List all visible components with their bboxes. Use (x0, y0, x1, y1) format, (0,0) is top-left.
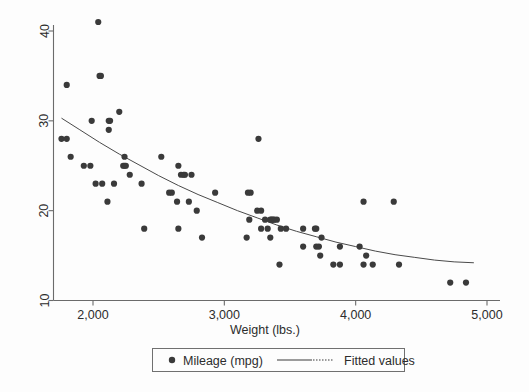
scatter-point (127, 172, 133, 178)
scatter-point (363, 252, 369, 258)
chart-page: 10203040 2,0003,0004,0005,000 Weight (lb… (0, 0, 529, 392)
scatter-point (283, 226, 289, 232)
scatter-point (317, 252, 323, 258)
scatter-point (330, 261, 336, 267)
y-tick-label: 20 (38, 204, 52, 218)
y-tick-label: 30 (38, 114, 52, 128)
scatter-point (64, 82, 70, 88)
scatter-point (357, 244, 363, 250)
scatter-point (99, 181, 105, 187)
scatter-point (106, 127, 112, 133)
scatter-point (276, 261, 282, 267)
scatter-point (300, 244, 306, 250)
scatter-point (265, 226, 271, 232)
scatter-point (360, 199, 366, 205)
scatter-point (274, 217, 280, 223)
scatter-point (123, 163, 129, 169)
scatter-point (186, 199, 192, 205)
scatter-point (64, 136, 70, 142)
scatter-point (370, 261, 376, 267)
scatter-point (258, 226, 264, 232)
scatter-point (447, 279, 453, 285)
scatter-point (141, 226, 147, 232)
legend-item-label-mileage: Mileage (mpg) (183, 354, 263, 368)
scatter-point (169, 190, 175, 196)
scatter-point (267, 235, 273, 241)
scatter-point (248, 190, 254, 196)
scatter-point (337, 244, 343, 250)
scatter-point (175, 226, 181, 232)
legend-circle-marker-icon (169, 357, 175, 363)
scatter-point (93, 181, 99, 187)
scatter-point (81, 163, 87, 169)
y-tick-label: 10 (38, 294, 52, 308)
scatter-point (391, 199, 397, 205)
x-tick-label: 3,000 (209, 308, 240, 322)
scatter-point (300, 226, 306, 232)
scatter-point (107, 118, 113, 124)
scatter-point (174, 199, 180, 205)
scatter-point (121, 154, 127, 160)
scatter-point (104, 199, 110, 205)
scatter-point (95, 19, 101, 25)
scatter-point (212, 190, 218, 196)
scatter-point (188, 172, 194, 178)
scatter-point (246, 217, 252, 223)
scatter-point (313, 226, 319, 232)
x-tick-label: 5,000 (471, 308, 502, 322)
scatter-point (258, 208, 264, 214)
scatter-point (463, 279, 469, 285)
scatter-point (255, 136, 261, 142)
scatter-point (116, 109, 122, 115)
scatter-point (199, 235, 205, 241)
scatter-point (89, 118, 95, 124)
scatter-point (175, 163, 181, 169)
scatter-point (182, 172, 188, 178)
legend-item-label-fitted: Fitted values (344, 354, 415, 368)
scatter-point (360, 261, 366, 267)
scatter-point (111, 181, 117, 187)
scatter-point (138, 181, 144, 187)
x-axis-title: Weight (lbs.) (230, 323, 300, 337)
scatter-plot-svg: 10203040 2,0003,0004,0005,000 Weight (lb… (0, 0, 529, 392)
x-tick-label: 2,000 (77, 308, 108, 322)
scatter-point (158, 154, 164, 160)
scatter-point (337, 261, 343, 267)
scatter-point (98, 73, 104, 79)
scatter-point (316, 244, 322, 250)
scatter-point (87, 163, 93, 169)
scatter-point (194, 208, 200, 214)
scatter-point (68, 154, 74, 160)
y-tick-label: 40 (38, 24, 52, 38)
scatter-point (318, 235, 324, 241)
scatter-point (244, 235, 250, 241)
x-tick-label: 4,000 (340, 308, 371, 322)
scatter-point (396, 261, 402, 267)
